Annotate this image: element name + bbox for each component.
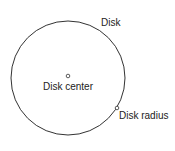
disk-label: Disk	[101, 17, 121, 28]
disk-center-label: Disk center	[43, 81, 94, 92]
disk-radius-label: Disk radius	[119, 110, 168, 121]
center-point	[66, 74, 70, 78]
disk-diagram: Disk Disk center Disk radius	[0, 0, 175, 151]
